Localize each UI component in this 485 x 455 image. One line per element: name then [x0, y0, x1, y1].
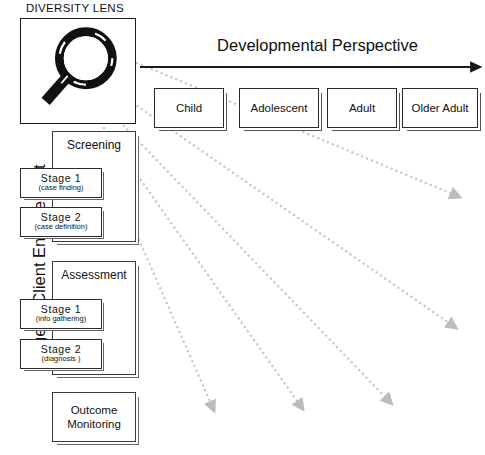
developmental-perspective-label: Developmental Perspective: [150, 36, 485, 55]
outcome-monitoring-line-2: Monitoring: [67, 417, 121, 431]
stage-subtitle: (diagnosis ): [42, 355, 81, 364]
age-box-older-adult[interactable]: Older Adult: [402, 88, 478, 128]
developmental-perspective-arrow: [140, 58, 485, 76]
age-box-child[interactable]: Child: [154, 88, 224, 128]
diversity-lens-box: [20, 18, 136, 124]
age-box-label: Older Adult: [412, 102, 469, 114]
stage-box-screening-1[interactable]: Stage 1 (case finding): [20, 168, 102, 198]
outcome-monitoring-box[interactable]: Outcome Monitoring: [52, 392, 136, 442]
stage-subtitle: (info gathering): [36, 315, 86, 324]
age-box-label: Adolescent: [251, 102, 308, 114]
age-box-adult[interactable]: Adult: [327, 88, 397, 128]
age-box-label: Child: [176, 102, 202, 114]
stage-box-assessment-1[interactable]: Stage 1 (info gathering): [20, 299, 102, 329]
group-title: Screening: [53, 138, 135, 152]
outcome-monitoring-line-1: Outcome: [71, 403, 118, 417]
diversity-lens-label: DIVERSITY LENS: [26, 2, 124, 14]
group-title: Assessment: [53, 268, 135, 282]
stage-subtitle: (case definition): [35, 223, 88, 232]
diagram-canvas: DIVERSITY LENS Developmental Perspective…: [0, 0, 485, 455]
stage-box-assessment-2[interactable]: Stage 2 (diagnosis ): [20, 339, 102, 369]
magnifying-glass-icon: [21, 19, 135, 123]
age-box-label: Adult: [349, 102, 375, 114]
stage-subtitle: (case finding): [38, 184, 83, 193]
age-box-adolescent[interactable]: Adolescent: [239, 88, 319, 128]
stage-box-screening-2[interactable]: Stage 2 (case definition): [20, 207, 102, 237]
